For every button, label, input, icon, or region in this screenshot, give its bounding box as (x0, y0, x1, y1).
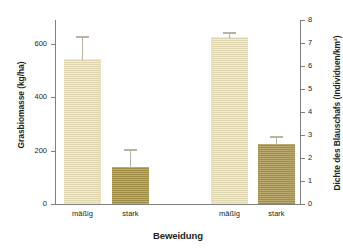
error-bar-stem-grasbiomasse-stark (130, 149, 132, 168)
y-axis-left-title: Grasbiomasse (kg/ha) (14, 25, 28, 185)
y-right-ticklabel-1: 1 (308, 177, 328, 185)
y-left-ticklabel-400: 400 (19, 93, 47, 101)
y-right-ticklabel-3: 3 (308, 131, 328, 139)
y-right-ticklabel-4: 4 (308, 108, 328, 116)
x-axis-line (55, 204, 301, 205)
x-label-bar-4: stark (256, 209, 297, 218)
y-left-ticklabel-0: 0 (19, 200, 47, 208)
y-left-tick-400 (51, 97, 55, 98)
y-right-tick-0 (301, 204, 305, 205)
y-axis-right-title: Dichte des Blauschafs (Individuen/km²) (330, 18, 343, 208)
y-left-tick-200 (51, 151, 55, 152)
y-right-tick-2 (301, 158, 305, 159)
error-bar-cap-grasbiomasse-stark (124, 149, 137, 151)
x-label-bar-3: mäßig (209, 209, 250, 218)
error-bar-stem-grasbiomasse-maessig (82, 36, 84, 60)
y-left-ticklabel-600: 600 (19, 40, 47, 48)
y-right-ticklabel-6: 6 (308, 62, 328, 70)
bar-grasbiomasse-stark (112, 167, 149, 204)
x-label-bar-2: stark (110, 209, 151, 218)
y-right-tick-3 (301, 135, 305, 136)
y-right-tick-1 (301, 181, 305, 182)
y-right-tick-5 (301, 89, 305, 90)
y-right-tick-4 (301, 112, 305, 113)
y-left-ticklabel-200: 200 (19, 147, 47, 155)
x-axis-title: Beweidung (55, 230, 301, 241)
y-right-ticklabel-0: 0 (308, 200, 328, 208)
error-bar-cap-blauschaf-stark (270, 136, 283, 138)
y-left-tick-0 (51, 204, 55, 205)
y-right-tick-7 (301, 43, 305, 44)
chart-figure: Grasbiomasse (kg/ha) Dichte des Blauscha… (0, 0, 343, 250)
y-axis-left-line (55, 20, 56, 205)
bar-grasbiomasse-maessig (64, 59, 101, 204)
error-bar-cap-grasbiomasse-maessig (76, 36, 89, 38)
y-right-ticklabel-2: 2 (308, 154, 328, 162)
x-label-bar-1: mäßig (62, 209, 103, 218)
bar-blauschaf-stark (258, 144, 295, 204)
y-right-tick-8 (301, 20, 305, 21)
y-right-ticklabel-5: 5 (308, 85, 328, 93)
y-right-tick-6 (301, 66, 305, 67)
y-right-ticklabel-7: 7 (308, 39, 328, 47)
error-bar-cap-blauschaf-maessig (223, 32, 236, 34)
bar-blauschaf-maessig (211, 37, 248, 204)
y-left-tick-600 (51, 44, 55, 45)
y-right-ticklabel-8: 8 (308, 16, 328, 24)
